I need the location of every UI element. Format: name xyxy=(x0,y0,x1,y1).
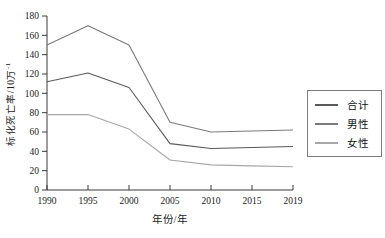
x-tick-label: 2000 xyxy=(120,196,139,206)
axes-lines xyxy=(47,16,293,190)
x-tick-label: 2015 xyxy=(243,196,262,206)
legend-item-total: 合计 xyxy=(315,95,381,114)
x-tick-label: 2019 xyxy=(284,196,303,206)
y-axis-title-superscript: -1 xyxy=(4,62,12,69)
legend-label-total: 合计 xyxy=(347,97,369,112)
y-tick-label: 180 xyxy=(25,11,40,21)
y-tick-label: 140 xyxy=(25,50,40,60)
y-tick-label: 20 xyxy=(30,166,40,176)
y-tick-label: 40 xyxy=(30,147,40,157)
y-axis-title-text: 标化死亡率/10万 xyxy=(6,69,16,146)
legend-label-male: 男性 xyxy=(347,116,369,131)
y-tick-label: 160 xyxy=(25,31,40,41)
x-tick-label: 2010 xyxy=(202,196,221,206)
series-line-合计 xyxy=(47,73,293,148)
x-tick-label: 1995 xyxy=(79,196,98,206)
y-tick-label: 120 xyxy=(25,69,40,79)
legend-item-female: 女性 xyxy=(315,133,381,152)
chart-figure: 0204060801001201401601801990199520002005… xyxy=(0,0,385,238)
legend-label-female: 女性 xyxy=(347,135,369,150)
y-axis-title: 标化死亡率/10万-1 xyxy=(3,14,17,194)
series-line-男性 xyxy=(47,26,293,132)
x-tick-label: 1990 xyxy=(38,196,57,206)
x-tick-label: 2005 xyxy=(161,196,180,206)
y-tick-label: 100 xyxy=(25,89,40,99)
y-tick-label: 80 xyxy=(30,108,40,118)
y-tick-label: 0 xyxy=(34,185,39,195)
legend-box: 合计 男性 女性 xyxy=(307,90,382,157)
y-tick-label: 60 xyxy=(30,127,40,137)
legend-item-male: 男性 xyxy=(315,114,381,133)
legend-line-swatch-male xyxy=(315,123,338,125)
x-axis-title: 年份/年 xyxy=(47,211,293,226)
legend-line-swatch-female xyxy=(315,142,338,144)
legend-line-swatch-total xyxy=(315,104,338,106)
